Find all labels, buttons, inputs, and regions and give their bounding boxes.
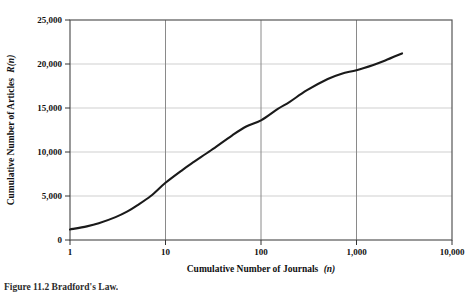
x-tick-label-100: 100 [254,247,268,257]
y-axis-title-italic: R(n) [6,55,17,74]
y-axis-title-main: Cumulative Number of Articles [6,78,16,206]
x-tick-label-10: 10 [161,247,171,257]
y-tick-label-15000: 15,000 [37,103,62,113]
y-tick-label-5000: 5,000 [42,191,63,201]
y-axis-title: Cumulative Number of Articles R(n) [6,55,17,206]
x-axis: 1101001,00010,000 [68,240,465,257]
y-tick-label-20000: 20,000 [37,59,62,69]
figure-container: 05,00010,00015,00020,00025,000 1101001,0… [0,0,472,294]
x-axis-title-main: Cumulative Number of Journals [187,264,319,274]
figure-caption: Figure 11.2 Bradford's Law. [4,281,118,294]
x-axis-title-italic: (n) [324,264,336,275]
y-tick-label-10000: 10,000 [37,147,62,157]
x-axis-title: Cumulative Number of Journals (n) [187,264,336,275]
y-tick-label-25000: 25,000 [37,15,62,25]
x-tick-label-1000: 1,000 [346,247,367,257]
x-tick-label-10000: 10,000 [440,247,465,257]
x-tick-label-1: 1 [68,247,73,257]
bradford-law-chart: 05,00010,00015,00020,00025,000 1101001,0… [0,0,472,294]
y-axis: 05,00010,00015,00020,00025,000 [37,15,70,245]
y-tick-label-0: 0 [58,235,63,245]
